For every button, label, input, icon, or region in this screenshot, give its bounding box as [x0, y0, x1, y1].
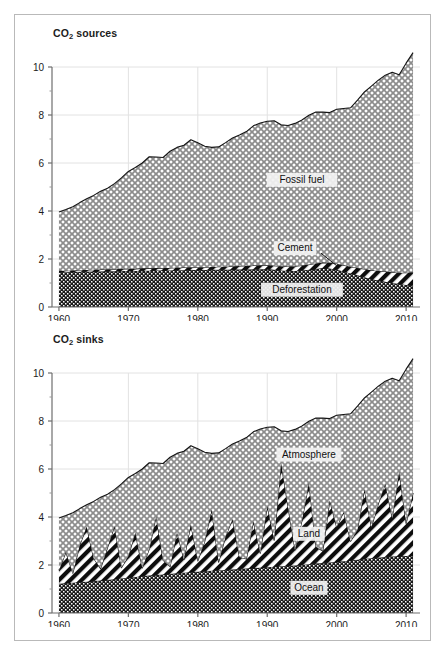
- region-label: Atmosphere: [282, 449, 336, 460]
- x-tick-label: 2010: [395, 314, 418, 321]
- panel-co2-sinks: CO2 sinks 024681019601970198019902000201…: [15, 327, 432, 627]
- y-tick-label: 8: [38, 416, 44, 427]
- x-tick-label: 1980: [187, 620, 210, 627]
- region-label: Land: [298, 528, 320, 539]
- x-tick-label: 1960: [48, 620, 71, 627]
- stacked-areas: [59, 359, 413, 613]
- y-tick-label: 4: [38, 512, 44, 523]
- region-label: Cement: [278, 242, 313, 253]
- x-tick-label: 1960: [48, 314, 71, 321]
- x-tick-label: 1990: [256, 314, 279, 321]
- y-tick-label: 6: [38, 158, 44, 169]
- y-tick-label: 2: [38, 254, 44, 265]
- region-label: Fossil fuel: [279, 174, 324, 185]
- x-tick-label: 2000: [326, 314, 349, 321]
- region-label: Ocean: [294, 582, 323, 593]
- region-label: Deforestation: [272, 284, 331, 295]
- x-tick-label: 1970: [117, 314, 140, 321]
- x-tick-label: 1980: [187, 314, 210, 321]
- stacked-areas: [59, 53, 413, 307]
- x-tick-label: 2000: [326, 620, 349, 627]
- y-tick-label: 0: [38, 302, 44, 313]
- y-tick-label: 2: [38, 560, 44, 571]
- y-tick-label: 6: [38, 464, 44, 475]
- chart-co2-sources: 0246810196019701980199020002010Fossil fu…: [15, 21, 432, 321]
- x-tick-label: 1970: [117, 620, 140, 627]
- y-tick-label: 4: [38, 206, 44, 217]
- chart-co2-sinks: 0246810196019701980199020002010Atmospher…: [15, 327, 432, 627]
- y-tick-label: 10: [33, 368, 45, 379]
- y-tick-label: 10: [33, 62, 45, 73]
- panel-co2-sources: CO2 sources 0246810196019701980199020002…: [15, 21, 432, 321]
- x-tick-label: 2010: [395, 620, 418, 627]
- x-tick-label: 1990: [256, 620, 279, 627]
- y-tick-label: 0: [38, 608, 44, 619]
- figure-frame: CO2 sources 0246810196019701980199020002…: [14, 14, 431, 641]
- y-tick-label: 8: [38, 110, 44, 121]
